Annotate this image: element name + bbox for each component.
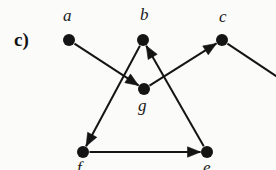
- node-c: [216, 34, 228, 46]
- arrowhead-a-g: [125, 74, 139, 85]
- node-e: [201, 146, 213, 158]
- node-b: [137, 34, 149, 46]
- node-f: [77, 146, 89, 158]
- arrowhead-g-c: [203, 43, 217, 54]
- arrowhead-f-e: [188, 147, 201, 157]
- edge-b-f: [86, 46, 140, 147]
- node-label-f: f: [77, 159, 82, 170]
- arrowhead-e-b: [146, 46, 157, 60]
- edge-g-c: [150, 43, 217, 85]
- figure-panel-c: c) abcgfe: [0, 0, 276, 170]
- node-g: [138, 83, 150, 95]
- edge-e-b: [146, 46, 204, 147]
- arrowhead-b-f: [86, 132, 97, 146]
- directed-graph-canvas: [0, 0, 276, 170]
- node-a: [63, 34, 75, 46]
- node-label-a: a: [63, 7, 72, 24]
- edge-layer: [74, 43, 276, 157]
- node-label-g: g: [138, 97, 147, 114]
- edge-f-e: [90, 147, 201, 157]
- panel-label: c): [14, 30, 29, 49]
- node-label-c: c: [219, 8, 227, 25]
- node-label-b: b: [140, 6, 149, 23]
- edge-c-out: [227, 44, 276, 82]
- node-label-e: e: [203, 159, 211, 170]
